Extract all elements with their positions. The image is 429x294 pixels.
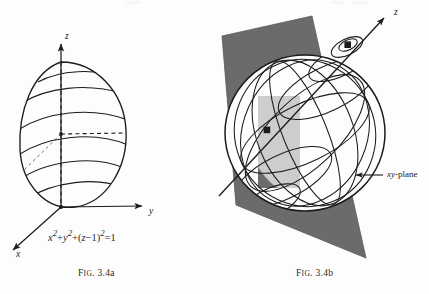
fig-a-latitude-bands <box>17 72 128 199</box>
fig-a-oblique-radius <box>22 134 61 172</box>
fig-a-horizontal-radius <box>61 133 126 134</box>
fig-a-origin-dot <box>59 205 63 209</box>
eq-rhs: 1 <box>111 232 116 243</box>
figure-3-4a-drawing <box>0 0 429 294</box>
fig-b-z-axis-label: z <box>394 7 398 17</box>
fig-a-y-axis-label: y <box>149 206 153 216</box>
fig-a-caption-ig: IG <box>84 269 93 278</box>
fig-a-caption-num: . 3.4a <box>92 268 115 278</box>
fig-a-x-axis-label: x <box>16 249 20 259</box>
fig-b-caption: FIG. 3.4b <box>296 268 333 278</box>
fig-b-xy-plane-label-suffix: -plane <box>395 169 418 179</box>
fig-a-z-axis-label: z <box>65 31 69 41</box>
fig-b-caption-ig: IG <box>302 269 311 278</box>
fig-b-caption-num: . 3.4b <box>310 268 333 278</box>
fig-a-sphere-outline <box>20 62 126 207</box>
fig-a-equation: x2+y2+(z−1)2=1 <box>48 228 116 243</box>
fig-b-xy-plane-label-xy: xy <box>387 169 395 179</box>
fig-b-xy-plane-label: xy-plane <box>387 169 418 179</box>
fig-a-caption: FIG. 3.4a <box>78 268 115 278</box>
fig-a-center-dot <box>59 132 63 136</box>
fig-b-sphere-center-point <box>264 127 271 134</box>
figure-page: z y x x2+y2+(z−1)2=1 FIG. 3.4a z xy-plan… <box>0 0 429 294</box>
fig-a-sphere <box>17 62 128 209</box>
fig-b-north-pole-point <box>344 41 351 48</box>
